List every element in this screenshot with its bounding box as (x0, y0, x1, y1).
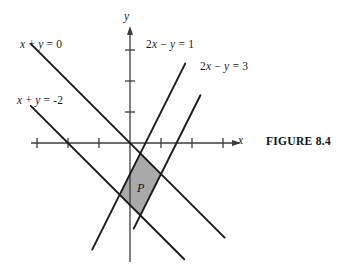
figure-container: x + y = 0 x + y = -2 2x − y = 1 2x − y =… (0, 0, 358, 274)
x-axis-label: x (238, 134, 243, 146)
line-x-plus-y-eq-0 (31, 44, 225, 238)
line-label-2x-minus-y-eq-3: 2x − y = 3 (200, 60, 248, 72)
line-label-x-plus-y-eq-0: x + y = 0 (20, 38, 62, 50)
line-label-x-plus-y-eq-minus-2: x + y = -2 (17, 94, 63, 106)
line-label-2x-minus-y-eq-1: 2x − y = 1 (146, 38, 194, 50)
y-axis-label: y (124, 10, 129, 22)
region-label-P: P (137, 181, 144, 196)
x-axis (31, 138, 241, 148)
figure-caption: FIGURE 8.4 (266, 135, 331, 147)
line-2x-minus-y-eq-1 (92, 64, 185, 250)
line-x-plus-y-eq-minus-2 (31, 106, 184, 259)
